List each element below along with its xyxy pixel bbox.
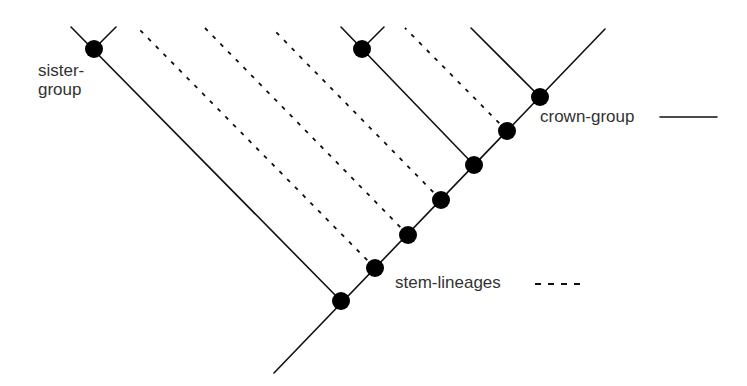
crown-group-label: crown-group bbox=[540, 107, 635, 126]
stem-node-5 bbox=[498, 122, 516, 140]
crown-node bbox=[531, 88, 549, 106]
stem-node-1 bbox=[366, 259, 384, 277]
sister-group-label: sister- group bbox=[38, 61, 84, 99]
root-node bbox=[332, 292, 350, 310]
side-branch-node bbox=[353, 40, 371, 58]
stem-lineage-dashed-1 bbox=[138, 28, 375, 268]
sister-label-line2: group bbox=[38, 80, 84, 99]
stem-node-3 bbox=[432, 191, 450, 209]
crown-left-arm bbox=[471, 28, 540, 97]
sister-label-line1: sister- bbox=[38, 61, 84, 80]
sister-branch-line bbox=[71, 27, 341, 301]
stem-lineage-dashed-4 bbox=[405, 28, 507, 131]
stem-lineage-dashed-2 bbox=[205, 28, 408, 235]
stem-node-4 bbox=[465, 156, 483, 174]
stem-node-2 bbox=[399, 226, 417, 244]
cladogram bbox=[0, 0, 747, 386]
stem-lineages-label: stem-lineages bbox=[395, 273, 501, 292]
sister-node bbox=[85, 40, 103, 58]
